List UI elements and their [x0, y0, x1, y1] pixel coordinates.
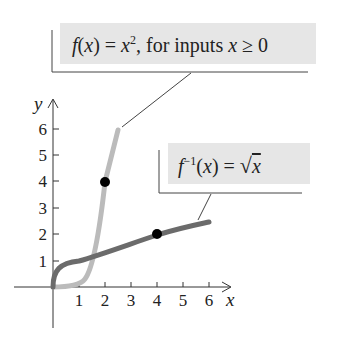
function-inverse-diagram: f(x) = x2, for inputs x ≥ 0 f−1(x) = √x — [0, 0, 340, 339]
callout2-arg: x — [202, 155, 212, 177]
point-2-4 — [100, 177, 110, 187]
callout2-x: x — [251, 155, 261, 177]
y-tick-label: 5 — [39, 146, 48, 165]
callout-f-inverse: f−1(x) = √x — [159, 143, 310, 220]
y-tick-label: 4 — [39, 172, 48, 191]
callout1-x: x — [120, 34, 130, 56]
y-tick-label: 6 — [39, 120, 48, 139]
callout2-eq: = — [219, 155, 240, 177]
callout2-paren-close: ) — [212, 155, 219, 178]
y-tick-label: 3 — [39, 199, 48, 218]
callout2-leader-line — [198, 194, 211, 220]
callout1-leader-line — [122, 73, 191, 127]
callout1-paren-close: ) — [93, 34, 100, 57]
callout-f-x-squared: f(x) = x2, for inputs x ≥ 0 — [52, 23, 316, 127]
x-tick-label: 3 — [127, 291, 136, 310]
y-tick-label: 2 — [39, 225, 48, 244]
x-tick-label: 2 — [101, 291, 110, 310]
x-tick-label: 6 — [205, 291, 214, 310]
x-tick-label: 4 — [153, 291, 162, 310]
callout1-rest: , for inputs — [136, 34, 228, 57]
svg-text:f(x) = x2, for inputs x ≥ 0: f(x) = x2, for inputs x ≥ 0 — [72, 33, 268, 57]
y-tick-labels: 1 2 3 4 5 6 — [39, 120, 48, 271]
y-axis-label: y — [32, 93, 43, 114]
curve-f-inverse-sqrt — [53, 222, 209, 287]
x-tick-labels: 1 2 3 4 5 6 — [75, 291, 214, 310]
callout1-x2: x — [227, 34, 237, 56]
x-tick-label: 1 — [75, 291, 84, 310]
x-axis-label: x — [225, 289, 235, 310]
callout1-eq: = — [100, 34, 121, 56]
callout1-arg: x — [83, 34, 93, 56]
point-4-2 — [152, 229, 162, 239]
callout1-ge: ≥ 0 — [237, 34, 268, 56]
y-tick-label: 1 — [39, 252, 48, 271]
callout2-root: √ — [240, 153, 253, 178]
x-tick-label: 5 — [179, 291, 188, 310]
callout2-sup: −1 — [184, 154, 197, 168]
